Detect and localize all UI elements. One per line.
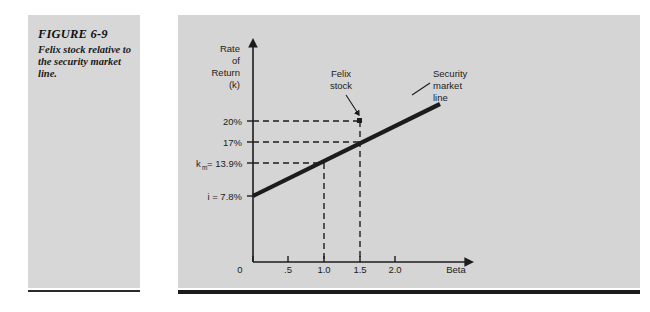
felix-stock-label-line-1: Felix	[331, 68, 351, 79]
x-tick-label-1-5: 1.5	[353, 264, 366, 275]
x-axis-title: Beta	[446, 264, 466, 275]
y-tick-label-km-value: = 13.9%	[207, 158, 243, 169]
y-tick-label-17: 17%	[223, 137, 243, 148]
x-tick-label-0-5: .5	[284, 264, 292, 275]
security-market-line	[253, 104, 440, 196]
y-axis-title-line-4: (k)	[229, 79, 240, 90]
y-axis-title-line-1: Rate	[220, 43, 240, 54]
figure-container: FIGURE 6-9 Felix stock relative to the s…	[0, 0, 650, 312]
felix-stock-label-line-2: stock	[330, 80, 352, 91]
caption-panel-bottom-rule	[28, 290, 140, 292]
chart-panel-bottom-rule	[178, 290, 640, 294]
x-tick-label-0: 0	[237, 264, 242, 275]
y-axis-title-line-2: of	[232, 55, 240, 66]
y-tick-label-i: i = 7.8%	[207, 191, 242, 202]
y-tick-label-20: 20%	[223, 116, 243, 127]
security-market-line-chart: Rate of Return (k) 0 .5 1.0 1.5 2.0 Beta…	[178, 15, 640, 288]
sml-label-line-1: Security	[433, 68, 468, 79]
felix-stock-data-point	[357, 118, 362, 123]
felix-stock-leader-line	[346, 95, 359, 115]
figure-number: FIGURE 6-9	[38, 27, 134, 42]
x-tick-label-2-0: 2.0	[388, 264, 401, 275]
x-tick-label-1-0: 1.0	[317, 264, 330, 275]
y-tick-label-km-prefix: k	[196, 158, 201, 169]
sml-leader-line	[412, 83, 430, 95]
sml-label-line-3: line	[433, 92, 448, 103]
y-axis-title-line-3: Return	[211, 67, 240, 78]
figure-caption: Felix stock relative to the security mar…	[38, 44, 134, 80]
y-tick-label-km: k m = 13.9%	[196, 158, 243, 171]
sml-label-line-2: market	[433, 80, 462, 91]
